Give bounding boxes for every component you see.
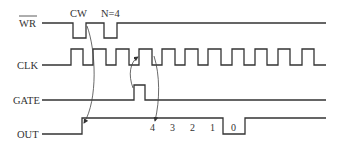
wr-waveform: [42, 23, 326, 38]
signal-label-clk: CLK: [17, 60, 38, 71]
count-label-3: 3: [170, 122, 175, 133]
arrow-gate-to-clk: [130, 57, 138, 88]
count-label-0: 0: [231, 122, 236, 133]
clk-waveform: [42, 49, 326, 65]
gate-waveform: [42, 85, 326, 100]
cw-annotation: CW: [70, 8, 87, 19]
signal-label-out: OUT: [17, 129, 39, 140]
signal-label-gate: GATE: [13, 95, 40, 106]
out-waveform: [42, 118, 326, 134]
count-label-1: 1: [210, 122, 215, 133]
arrow-wr-to-out: [84, 26, 94, 123]
timing-diagram: WR CLK GATE OUT CW N=4 4 3 2 1 0: [0, 0, 340, 149]
signal-label-wr: WR: [19, 18, 36, 29]
arrow-clk-to-out: [154, 56, 159, 121]
count-label-2: 2: [190, 122, 195, 133]
count-label-4: 4: [150, 122, 155, 133]
n-annotation: N=4: [101, 8, 121, 19]
